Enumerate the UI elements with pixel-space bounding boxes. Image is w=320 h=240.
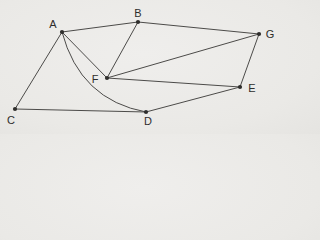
edge-D-E [146,87,240,112]
edge-C-D [15,109,146,112]
node-E-dot [238,85,242,89]
edge-B-F [107,22,138,78]
node-D-label: D [144,115,152,127]
edge-E-F [107,78,240,87]
edge-A-B [62,22,138,32]
edge-A-C [15,32,62,109]
node-G-dot [257,32,261,36]
node-D-dot [144,110,148,114]
edge-B-G [138,22,259,34]
node-F-dot [105,76,109,80]
edge-F-G [107,34,259,78]
node-G-label: G [266,28,275,40]
node-C-label: C [7,114,15,126]
node-F-label: F [92,73,99,85]
node-A-dot [60,30,64,34]
node-C-dot [13,107,17,111]
edge-A-F [62,32,107,78]
graph-figure: ABCDEFG [0,0,282,134]
node-B-dot [136,20,140,24]
node-B-label: B [134,7,141,19]
graph-svg: ABCDEFG [0,0,282,134]
node-E-label: E [248,82,255,94]
edge-E-G [240,34,259,87]
edge-A-D [62,32,146,112]
node-A-label: A [49,18,57,30]
